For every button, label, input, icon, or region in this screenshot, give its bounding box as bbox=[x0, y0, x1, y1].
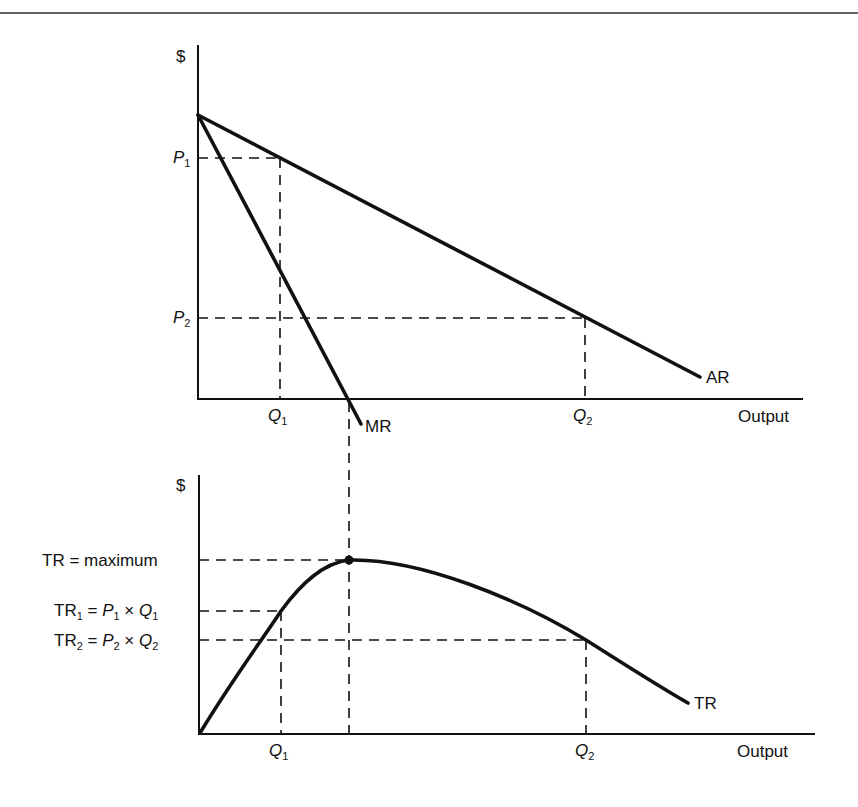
ar-curve bbox=[198, 115, 700, 377]
tr2-lhs: TR bbox=[54, 631, 77, 650]
bottom-q1-base: Q bbox=[269, 741, 282, 760]
tr1-lhs: TR bbox=[54, 601, 77, 620]
tr1-p: P bbox=[102, 601, 113, 620]
bottom-q2-sub: 2 bbox=[588, 750, 594, 762]
p1-label: P1 bbox=[173, 149, 190, 166]
top-q1-sub: 1 bbox=[281, 415, 287, 427]
tr2-times: × bbox=[120, 631, 139, 650]
diagram-graphics bbox=[0, 0, 858, 807]
tr-curve-label: TR bbox=[694, 695, 717, 712]
bottom-y-axis-label: $ bbox=[176, 477, 185, 494]
tr-curve bbox=[200, 560, 688, 733]
bottom-x-axis-label: Output bbox=[737, 743, 788, 760]
mr-curve-label: MR bbox=[365, 418, 391, 435]
top-q1-label: Q1 bbox=[268, 407, 287, 424]
tr2-label: TR2 = P2 × Q2 bbox=[54, 632, 158, 649]
tr2-q: Q bbox=[139, 631, 152, 650]
p2-base: P bbox=[173, 308, 184, 327]
ar-curve-label: AR bbox=[706, 369, 730, 386]
tr2-eq: = bbox=[83, 631, 102, 650]
tr1-eq: = bbox=[83, 601, 102, 620]
tr1-label: TR1 = P1 × Q1 bbox=[54, 602, 158, 619]
p2-sub: 2 bbox=[184, 317, 190, 329]
p1-sub: 1 bbox=[184, 157, 190, 169]
bottom-q1-label: Q1 bbox=[269, 742, 288, 759]
tr-maximum-point bbox=[345, 556, 354, 565]
top-q2-sub: 2 bbox=[586, 415, 592, 427]
tr2-q-sub: 2 bbox=[152, 640, 158, 652]
bottom-chart bbox=[198, 475, 815, 735]
tr1-q: Q bbox=[139, 601, 152, 620]
tr2-p: P bbox=[102, 631, 113, 650]
top-x-axis-label: Output bbox=[738, 408, 789, 425]
bottom-q2-base: Q bbox=[575, 741, 588, 760]
p2-label: P2 bbox=[173, 309, 190, 326]
tr2-lhs-sub: 2 bbox=[77, 640, 83, 652]
diagram-canvas: $ P1 P2 Q1 Q2 MR AR Output $ TR = maximu… bbox=[0, 0, 858, 807]
tr1-q-sub: 1 bbox=[152, 610, 158, 622]
tr1-lhs-sub: 1 bbox=[77, 610, 83, 622]
tr1-times: × bbox=[120, 601, 139, 620]
tr-max-label: TR = maximum bbox=[42, 552, 158, 569]
top-q2-label: Q2 bbox=[573, 407, 592, 424]
p1-base: P bbox=[173, 148, 184, 167]
top-q1-base: Q bbox=[268, 406, 281, 425]
bottom-q1-sub: 1 bbox=[282, 750, 288, 762]
tr1-p-sub: 1 bbox=[114, 610, 120, 622]
bottom-q2-label: Q2 bbox=[575, 742, 594, 759]
top-y-axis-label: $ bbox=[176, 48, 185, 65]
tr2-p-sub: 2 bbox=[114, 640, 120, 652]
top-q2-base: Q bbox=[573, 406, 586, 425]
